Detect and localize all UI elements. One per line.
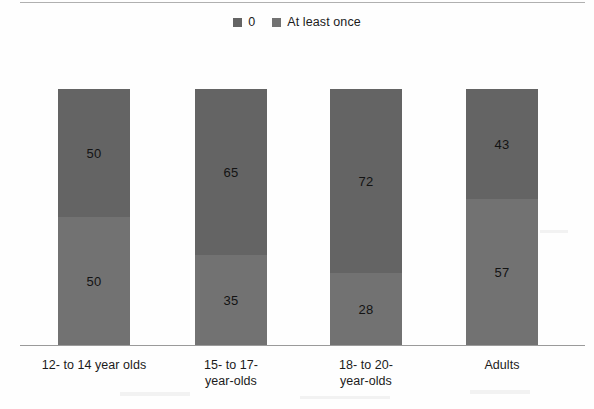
bar-segment-label: 35 [224,293,239,308]
category-label-line: year-olds [181,373,281,389]
category-label-adults: Adults [452,357,552,373]
category-label-line: 15- to 17- [181,357,281,373]
category-label-18-to-20: 18- to 20- year-olds [316,357,416,389]
bar-segment-zero[interactable]: 65 [195,89,267,255]
bar-segment-zero[interactable]: 72 [330,89,402,273]
bar-segment-at-least-once[interactable]: 57 [466,199,538,345]
bar-stack: 72 28 [330,89,402,345]
bar-segment-label: 43 [495,137,510,152]
bar-segment-zero[interactable]: 43 [466,89,538,199]
bar-stack: 65 35 [195,89,267,345]
bar-segment-label: 57 [495,265,510,280]
bar-segment-at-least-once[interactable]: 28 [330,273,402,345]
bar-segment-label: 50 [87,146,102,161]
category-label-line: Adults [452,357,552,373]
bar-segment-at-least-once[interactable]: 35 [195,255,267,345]
stacked-bar-chart: 0 At least once 50 50 12- to 14 year old… [0,0,594,409]
category-label-line: 12- to 14 year olds [28,357,160,373]
bar-segment-label: 28 [359,302,374,317]
category-label-line: year-olds [316,373,416,389]
bar-group-15-to-17: 65 35 [195,89,267,345]
bar-group-18-to-20: 72 28 [330,89,402,345]
bar-segment-at-least-once[interactable]: 50 [58,217,130,345]
bar-segment-label: 65 [224,165,239,180]
bar-group-adults: 43 57 [466,89,538,345]
bar-stack: 43 57 [466,89,538,345]
bar-segment-zero[interactable]: 50 [58,89,130,217]
bar-stack: 50 50 [58,89,130,345]
category-axis-line [20,345,585,346]
bar-segment-label: 72 [359,174,374,189]
category-label-12-to-14: 12- to 14 year olds [28,357,160,373]
bar-group-12-to-14: 50 50 [58,89,130,345]
category-label-line: 18- to 20- [316,357,416,373]
plot-area: 50 50 12- to 14 year olds 65 35 15- to [0,0,594,409]
category-label-15-to-17: 15- to 17- year-olds [181,357,281,389]
bar-segment-label: 50 [87,274,102,289]
